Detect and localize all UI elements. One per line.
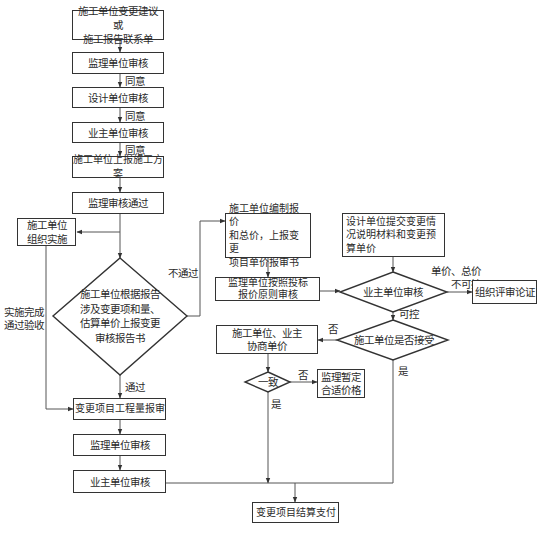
price-submission-box: 施工单位编制报价 和总价，上报变更 项目单价报审书	[225, 213, 311, 258]
owner-decision-text: 业主单位审核	[358, 285, 428, 299]
change-proposal-box: 施工单位变更建议或 施工报告联系单	[72, 10, 164, 40]
owner-review-box-2: 业主单位审核	[73, 470, 166, 493]
fail-label: 不通过	[168, 267, 198, 280]
accept-decision-text: 施工单位是否接受	[350, 333, 438, 347]
yes-label-1: 是	[271, 398, 281, 411]
owner-review-box: 业主单位审核	[72, 122, 164, 143]
settlement-payment-box: 变更项目结算支付	[252, 502, 339, 523]
main-decision-text: 施工单位根据报告 涉及变更项和量、 估算单价上报变更 审核报告书	[70, 287, 170, 345]
construction-plan-box: 施工单位上报施工方案	[72, 156, 164, 178]
quantity-review-box: 变更项目工程量报审	[73, 398, 166, 420]
temp-price-box: 监理暂定 合适价格	[317, 369, 365, 398]
controllable-label: 可控	[399, 308, 419, 321]
design-submission-box: 设计单位提交变更情 况说明材料和变更预 算单价	[342, 213, 445, 257]
supervisor-review-box: 监理单位审核	[72, 52, 164, 74]
no-label-2: 否	[328, 323, 338, 336]
design-review-box: 设计单位审核	[72, 87, 164, 108]
yes-label-2: 是	[398, 365, 408, 378]
supervisor-bid-review-box: 监理单位按照投标 报价原则审核	[215, 277, 320, 301]
supervisor-approved-box: 监理审核通过	[72, 192, 164, 214]
implementation-done-label: 实施完成 通过验收	[4, 306, 44, 332]
pass-label: 通过	[125, 381, 145, 394]
review-meeting-box: 组织评审论证	[472, 280, 537, 304]
no-label-1: 否	[298, 369, 308, 382]
agree-decision-text: 一致	[250, 375, 286, 389]
implement-box: 施工单位 组织实施	[17, 218, 76, 246]
supervisor-review-box-2: 监理单位审核	[73, 434, 166, 456]
negotiate-price-box: 施工单位、业主 协商单价	[216, 325, 318, 354]
